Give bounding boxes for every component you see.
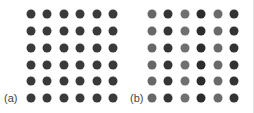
dot bbox=[93, 77, 102, 86]
dot bbox=[197, 94, 206, 103]
dot bbox=[181, 27, 190, 36]
dot bbox=[164, 61, 173, 70]
dot bbox=[148, 77, 157, 86]
dot bbox=[27, 61, 36, 70]
dot bbox=[109, 77, 118, 86]
dot bbox=[60, 94, 69, 103]
dot bbox=[148, 10, 157, 19]
dot bbox=[197, 77, 206, 86]
dot bbox=[164, 10, 173, 19]
right-border-line bbox=[253, 0, 254, 113]
dot bbox=[93, 94, 102, 103]
dot bbox=[197, 10, 206, 19]
dot bbox=[181, 77, 190, 86]
dot bbox=[60, 61, 69, 70]
dot bbox=[43, 61, 52, 70]
dot bbox=[181, 10, 190, 19]
dot bbox=[27, 10, 36, 19]
dot bbox=[230, 77, 239, 86]
dot bbox=[214, 10, 223, 19]
dot bbox=[43, 44, 52, 53]
panel-a-label: (a) bbox=[4, 93, 17, 104]
dot bbox=[60, 10, 69, 19]
dot bbox=[60, 77, 69, 86]
dot bbox=[43, 94, 52, 103]
dot bbox=[214, 27, 223, 36]
dot bbox=[148, 61, 157, 70]
dot bbox=[148, 94, 157, 103]
dot bbox=[214, 44, 223, 53]
dot bbox=[197, 27, 206, 36]
dot bbox=[230, 10, 239, 19]
dot bbox=[181, 61, 190, 70]
dot bbox=[76, 27, 85, 36]
dot bbox=[76, 61, 85, 70]
dot bbox=[76, 10, 85, 19]
dot bbox=[230, 94, 239, 103]
dot bbox=[43, 77, 52, 86]
dot bbox=[93, 10, 102, 19]
dot bbox=[109, 61, 118, 70]
dot bbox=[109, 94, 118, 103]
dot bbox=[214, 61, 223, 70]
dot bbox=[197, 44, 206, 53]
dot bbox=[164, 77, 173, 86]
dot bbox=[164, 94, 173, 103]
dot bbox=[230, 44, 239, 53]
dot bbox=[164, 44, 173, 53]
dot bbox=[27, 27, 36, 36]
dot bbox=[76, 44, 85, 53]
dot bbox=[214, 94, 223, 103]
dot bbox=[197, 61, 206, 70]
dot bbox=[109, 44, 118, 53]
dot bbox=[76, 94, 85, 103]
dot bbox=[148, 27, 157, 36]
dot bbox=[27, 77, 36, 86]
dot bbox=[230, 27, 239, 36]
dot bbox=[76, 77, 85, 86]
panel-b-label: (b) bbox=[130, 93, 143, 104]
dot bbox=[27, 44, 36, 53]
dot bbox=[93, 27, 102, 36]
dot bbox=[43, 27, 52, 36]
dot bbox=[109, 10, 118, 19]
dot bbox=[214, 77, 223, 86]
dot bbox=[93, 61, 102, 70]
dot bbox=[164, 27, 173, 36]
dot bbox=[230, 61, 239, 70]
dot bbox=[181, 94, 190, 103]
dot bbox=[27, 94, 36, 103]
dot bbox=[43, 10, 52, 19]
dot bbox=[181, 44, 190, 53]
dot bbox=[60, 44, 69, 53]
dot bbox=[60, 27, 69, 36]
dot bbox=[93, 44, 102, 53]
dot bbox=[148, 44, 157, 53]
dot bbox=[109, 27, 118, 36]
